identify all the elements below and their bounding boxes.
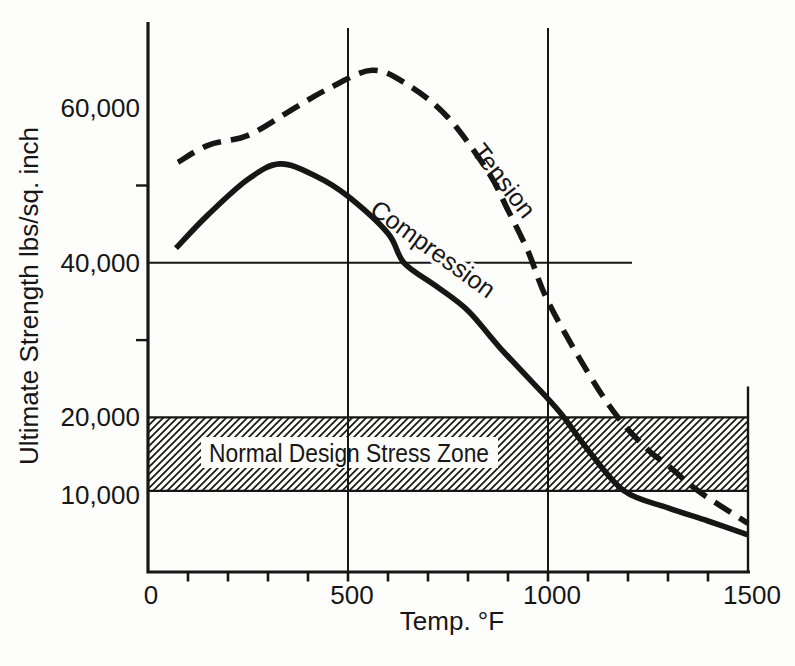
y-tick-label-60000: 60,000 [60, 93, 140, 123]
figure: 05001000150010,00020,00040,00060,000 Nor… [0, 0, 795, 666]
y-axis-label: Ultimate Strength lbs/sq. inch [14, 127, 44, 465]
tick-labels: 05001000150010,00020,00040,00060,000 [60, 93, 780, 610]
band-label: Normal Design Stress Zone [209, 439, 489, 467]
x-tick-label-0: 0 [144, 580, 158, 610]
strength-vs-temperature-chart: 05001000150010,00020,00040,00060,000 Nor… [0, 0, 795, 666]
tension-curve-label: Tension [467, 138, 542, 223]
x-axis-label: Temp. °F [400, 606, 504, 636]
x-tick-label-1500: 1500 [723, 580, 781, 610]
gridlines [148, 28, 748, 577]
y-tick-label-10000: 10,000 [60, 480, 140, 510]
y-tick-label-40000: 40,000 [60, 248, 140, 278]
x-tick-label-1000: 1000 [523, 580, 581, 610]
y-tick-label-20000: 20,000 [60, 402, 140, 432]
axis-titles: Temp. °F Ultimate Strength lbs/sq. inch [14, 127, 504, 636]
x-tick-label-500: 500 [330, 580, 373, 610]
